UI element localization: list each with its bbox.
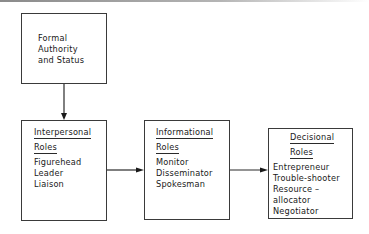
arrow-informational-to-decisional bbox=[230, 168, 268, 173]
arrow-authority-to-interpersonal bbox=[61, 84, 67, 120]
connector-arrows bbox=[0, 0, 369, 234]
arrow-interpersonal-to-informational bbox=[107, 168, 144, 173]
